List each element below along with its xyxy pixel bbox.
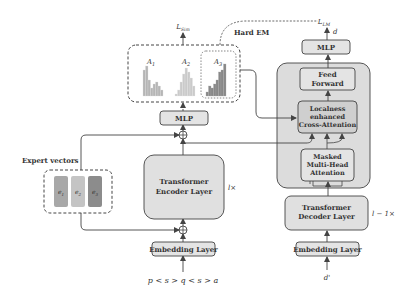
attention-map-a3: A3 xyxy=(206,58,226,96)
encoder-mlp: MLP xyxy=(160,111,208,125)
loss-sim-label: LSim xyxy=(175,23,189,32)
add-operator-top xyxy=(179,131,187,139)
svg-text:Transformer: Transformer xyxy=(160,177,209,186)
encoder-repeat-label: l× xyxy=(228,184,236,192)
masked-multi-head-attention: Masked Multi-Head Attention xyxy=(301,149,354,181)
attention-map-a2: A2 xyxy=(175,58,195,96)
svg-text:MLP: MLP xyxy=(175,114,194,123)
encoder-embedding-layer: Embedding Layer xyxy=(149,242,218,256)
attention-map-a1: A1 xyxy=(143,58,163,96)
svg-text:Localness: Localness xyxy=(310,105,346,113)
decoder-input-label: d' xyxy=(324,274,330,282)
svg-text:Masked: Masked xyxy=(313,153,342,161)
expert-vector-e2: e2 xyxy=(71,176,85,207)
decoder-repeat-label: l − 1× xyxy=(372,210,395,218)
localness-enhanced-cross-attention: Localness enhanced Cross-Attention xyxy=(298,101,357,133)
transformer-decoder-layer: Transformer Decoder Layer xyxy=(285,196,368,230)
svg-text:enhanced: enhanced xyxy=(310,113,346,121)
transformer-encoder-layer: Transformer Encoder Layer xyxy=(144,155,224,219)
decoder-mlp: MLP xyxy=(302,40,350,54)
svg-text:Embedding Layer: Embedding Layer xyxy=(149,245,218,254)
decoder-output-label: d xyxy=(333,28,338,36)
hard-em-label: Hard EM xyxy=(234,28,270,37)
svg-text:Encoder Layer: Encoder Layer xyxy=(156,187,213,196)
decoder-embedding-layer: Embedding Layer xyxy=(293,242,362,256)
loss-lm-label: LLM xyxy=(317,18,331,27)
svg-text:A1: A1 xyxy=(146,58,155,67)
encoder-input-sequence: p < s > q < s > a xyxy=(148,276,219,285)
expert-vector-e1: e1 xyxy=(54,176,68,207)
svg-text:A3: A3 xyxy=(213,58,222,67)
feed-forward: Feed Forward xyxy=(300,68,355,90)
svg-text:Forward: Forward xyxy=(311,79,343,88)
svg-text:MLP: MLP xyxy=(317,43,336,52)
svg-text:Embedding Layer: Embedding Layer xyxy=(293,245,362,254)
add-operator-bottom xyxy=(179,226,187,234)
architecture-diagram: p < s > q < s > a Embedding Layer Transf… xyxy=(0,0,411,297)
expert-vectors-title: Expert vectors xyxy=(22,156,79,165)
svg-text:Multi-Head: Multi-Head xyxy=(307,161,349,169)
svg-text:A2: A2 xyxy=(181,58,190,67)
svg-text:Attention: Attention xyxy=(309,169,345,177)
svg-text:Decoder Layer: Decoder Layer xyxy=(298,212,355,221)
svg-text:Transformer: Transformer xyxy=(302,203,351,212)
expert-vector-e3: e3 xyxy=(88,176,102,207)
svg-text:Feed: Feed xyxy=(318,70,336,79)
svg-text:Cross-Attention: Cross-Attention xyxy=(299,121,357,129)
